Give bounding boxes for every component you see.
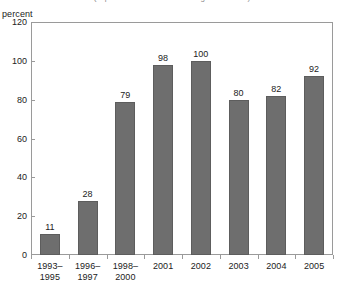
- x-axis-tick-mark: [182, 255, 183, 259]
- x-axis-label-line: 2005: [291, 261, 337, 272]
- x-axis-tick-mark: [258, 255, 259, 259]
- bar-value-label: 92: [296, 64, 332, 74]
- x-axis-tick-mark: [31, 255, 32, 259]
- bar-value-label: 11: [32, 222, 68, 232]
- bar-slot: 98: [145, 22, 181, 255]
- bar-chart: (in percent of households using the Inte…: [0, 0, 341, 290]
- bar-slot: 92: [296, 22, 332, 255]
- x-axis-tick-mark: [144, 255, 145, 259]
- y-axis-tick-label: 80: [1, 96, 27, 105]
- x-axis-tick-mark: [107, 255, 108, 259]
- bar-slot: 79: [107, 22, 143, 255]
- x-axis-tick-mark: [220, 255, 221, 259]
- y-axis-tick-label: 0: [1, 251, 27, 260]
- x-axis-category-label: 2005: [291, 261, 337, 272]
- bar-slot: 80: [221, 22, 257, 255]
- bar-value-label: 100: [183, 49, 219, 59]
- bar-slot: 11: [32, 22, 68, 255]
- bar-slot: 100: [183, 22, 219, 255]
- bar[interactable]: [115, 102, 135, 255]
- x-axis-tick-mark: [69, 255, 70, 259]
- bar-value-label: 28: [70, 189, 106, 199]
- bar[interactable]: [40, 234, 60, 255]
- bar-slot: 82: [258, 22, 294, 255]
- y-axis-tick-label: 60: [1, 135, 27, 144]
- bars-layer: 11287998100808292: [31, 22, 333, 255]
- bar[interactable]: [304, 76, 324, 255]
- bar[interactable]: [78, 201, 98, 255]
- x-axis-tick-mark: [333, 255, 334, 259]
- bar-value-label: 80: [221, 88, 257, 98]
- bar-value-label: 79: [107, 90, 143, 100]
- bar[interactable]: [191, 61, 211, 255]
- x-axis-tick-mark: [295, 255, 296, 259]
- y-axis-tick-label: 100: [1, 57, 27, 66]
- bar-slot: 28: [70, 22, 106, 255]
- y-axis-tick-label: 20: [1, 212, 27, 221]
- bar[interactable]: [266, 96, 286, 255]
- chart-title: (in percent of households using the Inte…: [52, 0, 292, 2]
- bar-value-label: 98: [145, 53, 181, 63]
- bar-value-label: 82: [258, 84, 294, 94]
- y-axis-tick-label: 40: [1, 173, 27, 182]
- y-axis-tick-label: 120: [1, 18, 27, 27]
- bar[interactable]: [153, 65, 173, 255]
- bar[interactable]: [229, 100, 249, 255]
- x-axis-label-line: 2000: [102, 272, 148, 283]
